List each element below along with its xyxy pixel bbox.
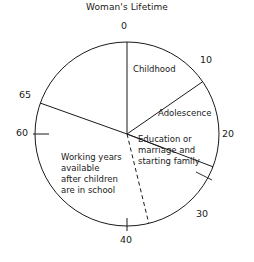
tick-label-0: 0 (121, 21, 127, 31)
radius-line-65 (40, 103, 127, 134)
tick-label-65: 65 (19, 90, 31, 100)
slice-label-adolescence: Adolescence (158, 108, 211, 119)
tick-label-30: 30 (196, 209, 208, 219)
tick-label-60: 60 (16, 128, 28, 138)
slice-label-working-line3: after children (61, 174, 122, 185)
slice-label-education-line2: marriage and (138, 145, 200, 156)
tick-label-10: 10 (200, 55, 212, 65)
slice-label-working-line1: Working years (61, 152, 122, 163)
slice-label-working-line4: are in school (61, 185, 122, 196)
tick-label-40: 40 (120, 235, 132, 245)
slice-label-working-years: Working years available after children a… (61, 152, 122, 196)
pie-diagram-svg (0, 0, 254, 262)
tick-label-20: 20 (222, 129, 234, 139)
slice-label-education-line3: starting family (138, 156, 200, 167)
slice-label-childhood: Childhood (133, 64, 176, 75)
leader-line-starting-family (196, 172, 212, 180)
slice-label-education: Education or marriage and starting famil… (138, 134, 200, 167)
slice-label-education-line1: Education or (138, 134, 200, 145)
pie-chart-figure: Woman's Lifetime 0 10 20 30 40 60 65 Chi… (0, 0, 254, 262)
slice-label-working-line2: available (61, 163, 122, 174)
